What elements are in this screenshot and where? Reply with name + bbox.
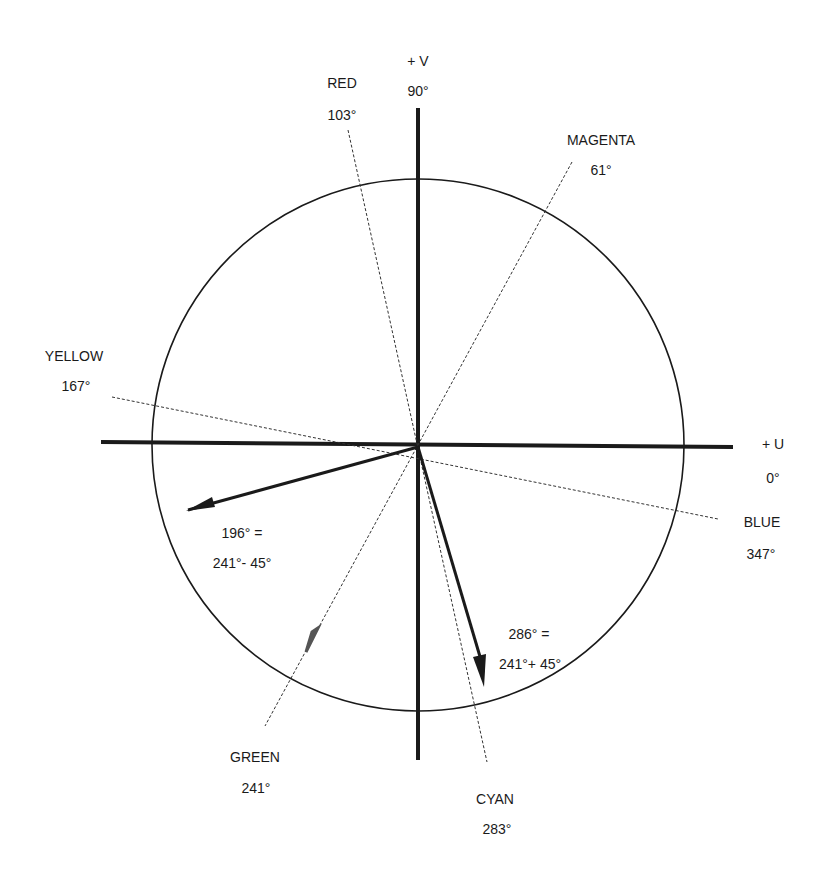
arrowhead-286-icon <box>473 654 486 687</box>
arrowhead-196-icon <box>186 497 215 511</box>
yellow-angle: 167° <box>62 379 91 393</box>
blue-label: BLUE <box>744 515 781 529</box>
magenta-label: MAGENTA <box>567 133 635 147</box>
v-axis-label: + V <box>407 54 428 68</box>
vector-196-eq: 196° = <box>221 526 262 540</box>
vector-286-expr: 241°+ 45° <box>499 657 561 671</box>
blue-angle: 347° <box>747 547 776 561</box>
vector-286-eq: 286° = <box>508 627 549 641</box>
green-angle: 241° <box>242 781 271 795</box>
vector-diagram <box>0 0 817 869</box>
red-angle: 103° <box>328 108 357 122</box>
yellow-label: YELLOW <box>45 349 103 363</box>
vector-196-expr: 241°- 45° <box>213 556 272 570</box>
red-label: RED <box>327 76 357 90</box>
u-axis-label: + U <box>762 437 784 451</box>
cyan-label: CYAN <box>476 792 514 806</box>
yellow-line <box>112 397 718 519</box>
green-arrowhead-icon <box>306 628 318 652</box>
cyan-angle: 283° <box>483 822 512 836</box>
vector-196 <box>188 447 418 510</box>
vector-286 <box>418 447 481 660</box>
green-label: GREEN <box>230 750 280 764</box>
u-axis-angle: 0° <box>766 471 779 485</box>
magenta-angle: 61° <box>590 163 611 177</box>
v-axis-angle: 90° <box>407 84 428 98</box>
